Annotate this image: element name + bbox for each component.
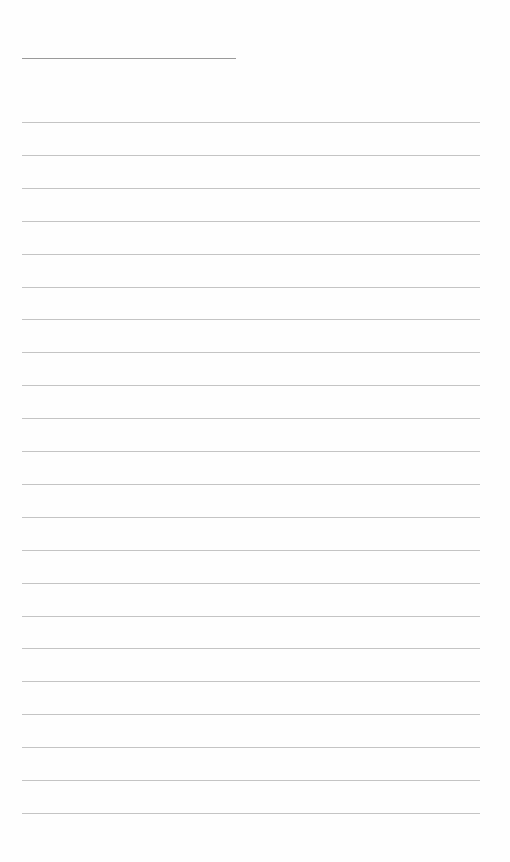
ruled-line <box>22 385 480 386</box>
ruled-line <box>22 451 480 452</box>
ruled-line <box>22 122 480 123</box>
ruled-line <box>22 681 480 682</box>
ruled-line <box>22 780 480 781</box>
ruled-line <box>22 616 480 617</box>
ruled-line <box>22 319 480 320</box>
ruled-line <box>22 583 480 584</box>
ruled-line <box>22 221 480 222</box>
ruled-line <box>22 550 480 551</box>
title-line <box>22 58 236 59</box>
lined-page <box>0 0 510 862</box>
ruled-line <box>22 188 480 189</box>
ruled-line <box>22 813 480 814</box>
ruled-line <box>22 747 480 748</box>
ruled-line <box>22 155 480 156</box>
ruled-line <box>22 648 480 649</box>
ruled-line <box>22 352 480 353</box>
ruled-line <box>22 714 480 715</box>
ruled-line <box>22 484 480 485</box>
ruled-line <box>22 418 480 419</box>
ruled-line <box>22 287 480 288</box>
ruled-line <box>22 254 480 255</box>
ruled-line <box>22 517 480 518</box>
